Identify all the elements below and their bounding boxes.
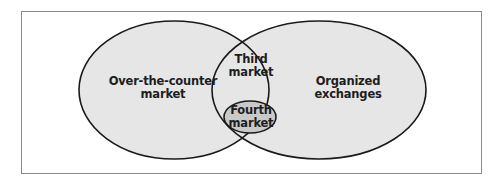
venn-diagram [0, 0, 504, 187]
third-market-label: Third market [215, 53, 287, 79]
organized-exchanges-label: Organized exchanges [298, 75, 398, 101]
fourth-market-label: Fourth market [215, 104, 287, 130]
